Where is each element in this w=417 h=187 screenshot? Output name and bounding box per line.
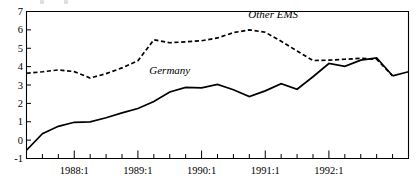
y-tick-label: 0 bbox=[18, 135, 23, 146]
y-axis-tick-labels: -101234567 bbox=[14, 6, 24, 164]
x-tick-label: 1990:1 bbox=[187, 165, 216, 176]
y-tick-label: 5 bbox=[18, 43, 23, 54]
series-line-other-ems bbox=[27, 30, 393, 78]
line-chart: -101234567 1988:11989:11990:11991:11992:… bbox=[0, 0, 417, 187]
x-tick-label: 1992:1 bbox=[314, 165, 343, 176]
x-axis-tick-labels: 1988:11989:11990:11991:11992:1 bbox=[60, 165, 344, 176]
y-tick-label: 6 bbox=[18, 24, 23, 35]
y-tick-label: 1 bbox=[18, 116, 23, 127]
y-axis-ticks bbox=[27, 12, 32, 159]
x-axis-ticks bbox=[27, 151, 393, 159]
x-tick-label: 1988:1 bbox=[60, 165, 89, 176]
series-label-other-ems: Other EMS bbox=[248, 8, 298, 20]
series-line-germany bbox=[27, 58, 393, 150]
x-tick-label: 1991:1 bbox=[251, 165, 280, 176]
series-label-germany: Germany bbox=[149, 64, 190, 76]
y-tick-label: -1 bbox=[14, 153, 23, 164]
series-line-germany-tail bbox=[393, 72, 409, 76]
chart-container: -101234567 1988:11989:11990:11991:11992:… bbox=[0, 0, 417, 187]
series-layer bbox=[27, 30, 409, 150]
y-tick-label: 7 bbox=[18, 6, 23, 17]
y-tick-label: 2 bbox=[18, 98, 23, 109]
y-tick-label: 4 bbox=[18, 61, 24, 72]
x-tick-label: 1989:1 bbox=[123, 165, 152, 176]
y-tick-label: 3 bbox=[18, 80, 23, 91]
